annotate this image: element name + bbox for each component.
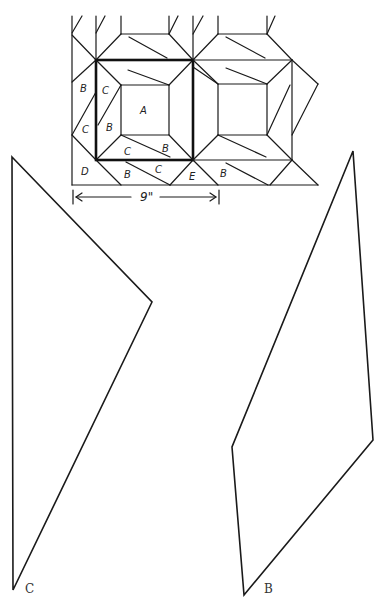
label-b: B — [80, 83, 87, 94]
label-b: B — [124, 169, 131, 180]
label-c: C — [124, 146, 131, 157]
label-a: A — [139, 105, 147, 116]
template-b: B — [232, 151, 373, 596]
dimension-label: 9" — [140, 190, 153, 204]
template-c-label: C — [25, 582, 34, 596]
label-d: D — [81, 166, 89, 177]
block-diagram: B C A C B C B D B C E B 9" — [72, 16, 318, 204]
template-c: C — [12, 157, 152, 596]
label-c: C — [155, 164, 162, 175]
label-b: B — [162, 143, 169, 154]
dimension-9-inch: 9" — [73, 190, 219, 204]
quilt-diagram-canvas: B C A C B C B D B C E B 9" C B — [0, 0, 385, 602]
label-c: C — [102, 85, 109, 96]
label-c: C — [82, 124, 89, 135]
label-b: B — [220, 168, 227, 179]
label-b: B — [106, 122, 113, 133]
label-e: E — [189, 171, 196, 182]
template-b-label: B — [264, 582, 273, 596]
